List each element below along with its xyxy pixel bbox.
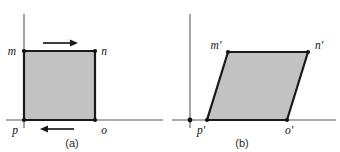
label-n: n <box>101 45 107 57</box>
parallelogram-shape <box>207 52 308 120</box>
label-m: m <box>8 45 16 57</box>
bottom-arrow-icon <box>40 126 74 133</box>
top-arrow-icon <box>43 40 78 47</box>
vertex-dot-m <box>22 49 26 53</box>
label-p-prime: p' <box>196 124 206 137</box>
vertex-dot-o-prime <box>285 118 289 122</box>
panel-a: m n o p (a) <box>6 14 163 149</box>
label-o: o <box>101 124 107 136</box>
panel-b: m' n' o' p' (b) <box>172 14 336 149</box>
panel-b-origin-dot <box>188 118 193 123</box>
shear-transformation-figure: m n o p (a) m' n' o' p' (b) <box>0 0 340 152</box>
vertex-dot-p <box>22 118 26 122</box>
label-m-prime: m' <box>211 39 222 51</box>
vertex-dot-m-prime <box>226 50 230 54</box>
caption-b: (b) <box>235 137 248 149</box>
label-o-prime: o' <box>285 124 294 136</box>
vertex-dot-p-prime <box>205 118 209 122</box>
square-shape <box>24 51 95 120</box>
vertex-dot-n-prime <box>306 50 310 54</box>
label-p: p <box>11 124 18 137</box>
vertex-dot-n <box>93 49 97 53</box>
vertex-dot-o <box>93 118 97 122</box>
label-n-prime: n' <box>315 39 324 51</box>
caption-a: (a) <box>65 137 78 149</box>
